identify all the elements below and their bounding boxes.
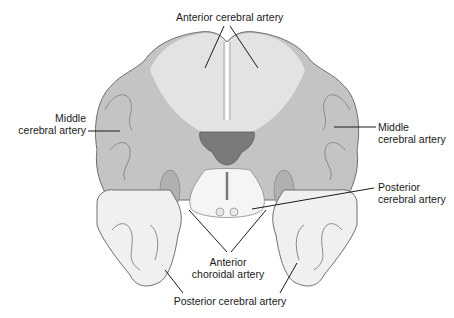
- label-middle-cerebral-artery-left: Middle cerebral artery: [6, 112, 86, 136]
- mammillary-body-left: [216, 208, 224, 216]
- posterior-cerebral-territory-right: [273, 190, 357, 286]
- label-middle-left-line1: Middle: [6, 112, 86, 124]
- label-choroidal-line2: choroidal artery: [190, 268, 266, 280]
- label-middle-right-line2: cerebral artery: [378, 133, 446, 145]
- label-anterior-choroidal-artery: Anterior choroidal artery: [190, 256, 266, 280]
- label-posterior-cerebral-artery-bottom: Posterior cerebral artery: [170, 295, 290, 307]
- label-anterior-cerebral-artery: Anterior cerebral artery: [176, 11, 280, 23]
- label-choroidal-line1: Anterior: [190, 256, 266, 268]
- label-middle-right-line1: Middle: [378, 121, 446, 133]
- label-posterior-cerebral-artery-right: Posterior cerebral artery: [378, 181, 446, 205]
- mammillary-body-right: [230, 208, 238, 216]
- label-middle-cerebral-artery-right: Middle cerebral artery: [378, 121, 446, 145]
- label-middle-left-line2: cerebral artery: [6, 124, 86, 136]
- posterior-cerebral-territory-left: [97, 190, 181, 286]
- leader-posterior-bottom-left: [165, 270, 183, 293]
- label-posterior-right-line2: cerebral artery: [378, 193, 446, 205]
- label-posterior-right-line1: Posterior: [378, 181, 446, 193]
